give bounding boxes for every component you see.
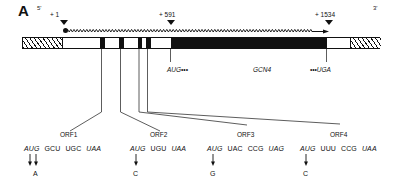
panel-letter: A	[18, 3, 29, 18]
position-marker-591-arrow	[167, 20, 175, 25]
orf4-codon-3: UAA	[362, 145, 377, 152]
gene-bar	[22, 37, 380, 49]
orf4-mutation-base: C	[303, 170, 308, 178]
gene-structure-figure: A 5' 3' + 1 + 591 + 1534 AUG••• GCN4 •••…	[0, 0, 404, 189]
gcn4-coding-box	[171, 38, 327, 48]
three-prime-label: 3'	[373, 5, 377, 11]
orf1-codons: AUG GCU UGC UAA	[24, 144, 101, 153]
gcn4-stop-codon-label: •••UGA	[310, 66, 331, 74]
orf3-mutation-arrows	[207, 153, 237, 169]
orf4-name: ORF4	[330, 131, 347, 138]
position-label-1: + 1	[50, 11, 59, 18]
position-label-1534: + 1534	[315, 11, 335, 18]
position-label-591: + 591	[159, 11, 175, 18]
orf1-codon-2: UGC	[65, 145, 81, 152]
orf2-codons: AUG UGU UAA	[130, 144, 186, 153]
orf1-mutation-arrows	[24, 153, 64, 169]
orf3-codon-0: AUG	[207, 145, 222, 152]
orf3-codon-1: UAC	[228, 145, 243, 152]
uorf3-box	[138, 38, 142, 48]
orf3-codon-2: CCG	[248, 145, 264, 152]
downstream-hatched-region	[350, 38, 381, 48]
orf2-codon-1: UGU	[151, 145, 167, 152]
uorf1-box	[100, 38, 105, 48]
gcn4-start-codon-label: AUG•••	[167, 66, 188, 74]
orf4-mutation-arrows	[300, 153, 330, 169]
five-prime-label: 5'	[37, 5, 41, 11]
orf1-codon-1: GCU	[45, 145, 61, 152]
orf1-mutation-base: A	[33, 170, 38, 178]
orf1-codon-3: UAA	[86, 145, 101, 152]
orf2-mutation-base: C	[133, 170, 138, 178]
orf3-codons: AUG UAC CCG UAG	[207, 144, 284, 153]
uorf4-box	[146, 38, 151, 48]
orf4-codon-0: AUG	[300, 145, 315, 152]
gcn4-gene-label: GCN4	[253, 66, 271, 74]
orf3-mutation-base: G	[210, 170, 215, 178]
upstream-hatched-region	[23, 38, 63, 48]
orf1-name: ORF1	[60, 131, 77, 138]
orf2-name: ORF2	[150, 131, 167, 138]
orf4-codon-2: CCG	[341, 145, 357, 152]
orf1-codon-0: AUG	[24, 145, 39, 152]
orf2-codon-2: UAA	[171, 145, 186, 152]
orf4-codon-1: UUU	[321, 145, 336, 152]
position-marker-1534-arrow	[325, 20, 333, 25]
position-marker-1-arrow	[60, 20, 68, 25]
uorf2-box	[119, 38, 124, 48]
orf2-codon-0: AUG	[130, 145, 145, 152]
orf4-codons: AUG UUU CCG UAA	[300, 144, 377, 153]
orf3-name: ORF3	[237, 131, 254, 138]
orf2-mutation-arrows	[130, 153, 160, 169]
orf3-codon-3: UAG	[269, 145, 284, 152]
transcript-wavy-arrow	[66, 28, 331, 35]
